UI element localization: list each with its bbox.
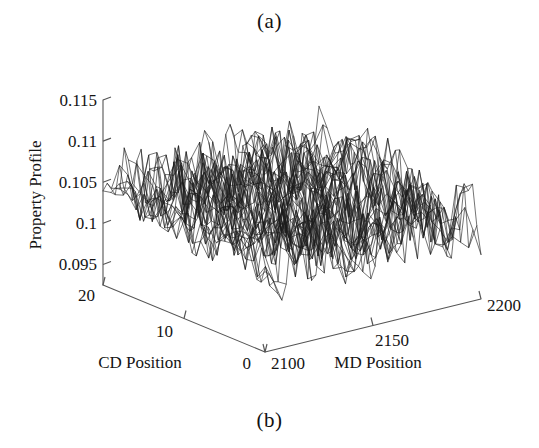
cd-tick-mark bbox=[184, 311, 186, 319]
md-tick-label: 2150 bbox=[375, 331, 409, 350]
md-tick-label: 2100 bbox=[271, 354, 305, 373]
cd-tick-label: 10 bbox=[156, 322, 173, 341]
mesh-surface bbox=[103, 106, 481, 300]
cd-tick-label: 0 bbox=[243, 354, 252, 373]
md-tick-label: 2200 bbox=[487, 296, 521, 315]
md-tick-mark bbox=[371, 318, 373, 326]
z-axis-title: Property Profile bbox=[26, 140, 45, 249]
figure-container: (a) 0.1150.110.1050.10.09501020210021502… bbox=[0, 0, 539, 448]
cd-axis-title: CD Position bbox=[98, 353, 182, 372]
z-tick-mark bbox=[103, 220, 111, 223]
z-tick-mark bbox=[103, 97, 111, 100]
cd-tick-mark bbox=[265, 344, 267, 352]
panel-label-b: (b) bbox=[0, 408, 539, 433]
md-tick-mark bbox=[479, 291, 481, 299]
z-tick-label: 0.1 bbox=[76, 214, 97, 233]
z-tick-mark bbox=[103, 138, 111, 141]
z-tick-label: 0.11 bbox=[68, 132, 97, 151]
z-tick-label: 0.115 bbox=[59, 91, 97, 110]
z-tick-mark bbox=[103, 261, 111, 264]
z-tick-mark bbox=[103, 179, 111, 182]
z-tick-label: 0.105 bbox=[59, 173, 97, 192]
z-tick-label: 0.095 bbox=[59, 255, 97, 274]
cd-tick-label: 20 bbox=[78, 286, 95, 305]
mesh-plot-svg: 0.1150.110.1050.10.09501020210021502200 … bbox=[0, 0, 539, 448]
md-axis-title: MD Position bbox=[334, 353, 422, 372]
